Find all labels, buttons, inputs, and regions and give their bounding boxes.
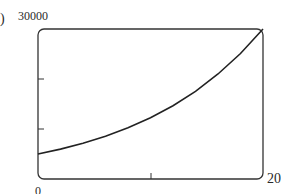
data-curve (38, 29, 263, 154)
plot-frame (38, 29, 263, 179)
chart-plot (0, 0, 281, 194)
y-ticks (38, 79, 44, 129)
